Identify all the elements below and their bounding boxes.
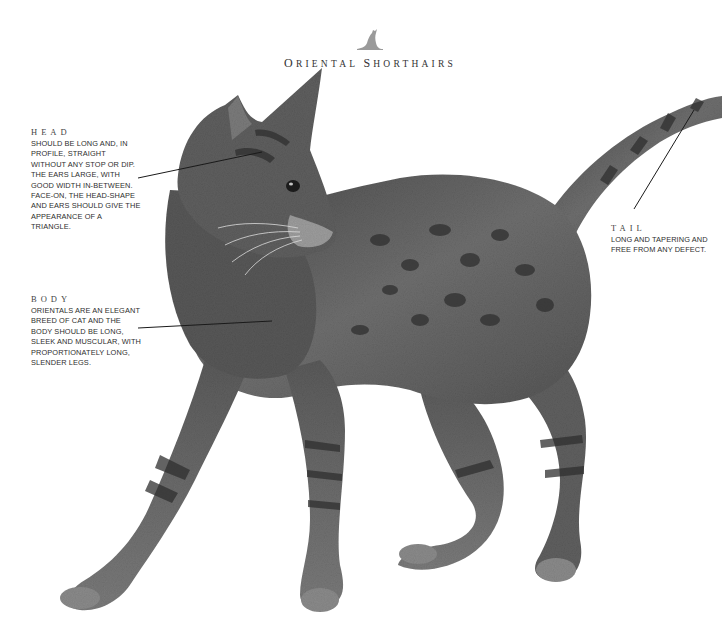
callout-text: Orientals are an elegant breed of cat an… (31, 306, 143, 368)
callout-tail: TAIL Long and tapering and free from any… (611, 223, 721, 256)
page-title: ORIENTAL SHORTHAIRS (280, 56, 460, 71)
callout-heading: TAIL (611, 223, 721, 233)
title-initial: O (284, 56, 296, 70)
cat-paw (399, 544, 437, 564)
cat-back-leg-far (398, 380, 504, 570)
title-word: HORTHAIRS (373, 59, 456, 69)
callout-text: Should be long and, in profile, straight… (31, 139, 141, 233)
cat-figure (60, 68, 722, 612)
title-word: RIENTAL (296, 59, 358, 69)
callout-heading: BODY (31, 294, 143, 304)
cat-tail (548, 96, 722, 235)
callout-head: HEAD Should be long and, in profile, str… (31, 127, 141, 233)
callout-body: BODY Orientals are an elegant breed of c… (31, 294, 143, 368)
page-header: ORIENTAL SHORTHAIRS (280, 26, 460, 71)
cat-eye (286, 180, 300, 192)
cat-paw (536, 558, 576, 582)
callout-heading: HEAD (31, 127, 141, 137)
cat-paw (60, 587, 100, 609)
cat-front-leg-near (285, 360, 345, 608)
callout-text: Long and tapering and free from any defe… (611, 235, 721, 256)
cat-silhouette-icon (353, 26, 387, 52)
cat-eye-highlight (289, 183, 293, 186)
title-initial: S (363, 56, 373, 70)
cat-paw (301, 588, 339, 612)
